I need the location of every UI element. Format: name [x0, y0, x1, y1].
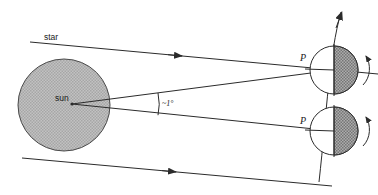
diagram-canvas: star sun ~1° P: [0, 0, 378, 195]
sun-label: sun: [55, 93, 69, 103]
star-ray-lower: [22, 158, 332, 186]
rotation-arrow-icon: [363, 56, 369, 85]
angle-label: ~1°: [162, 99, 174, 108]
star-label: star: [44, 32, 58, 42]
arrow-right-icon: [168, 55, 182, 56]
sight-lines: [72, 70, 334, 131]
sight-line-upper: [72, 70, 334, 104]
angle-arc: [158, 93, 159, 115]
earth-lower-night-side: [334, 107, 358, 155]
sun-body: sun: [18, 59, 110, 151]
point-label-lower: P: [299, 115, 306, 126]
sight-line-lower: [72, 104, 334, 131]
earth-upper: P: [299, 44, 369, 96]
earth-upper-night-side: [334, 46, 358, 94]
astronomy-diagram: star sun ~1° P: [0, 0, 378, 195]
arrow-right-icon: [162, 171, 176, 172]
orbit-path: [319, 12, 342, 182]
angle-annotation: ~1°: [158, 93, 174, 115]
point-label-upper: P: [299, 52, 306, 63]
orbit-arc: [319, 12, 341, 182]
rotation-arrow-icon: [363, 117, 369, 146]
sun-circle: [18, 59, 110, 151]
earth-lower: P: [299, 105, 369, 157]
arrow-up-icon: [336, 13, 342, 28]
